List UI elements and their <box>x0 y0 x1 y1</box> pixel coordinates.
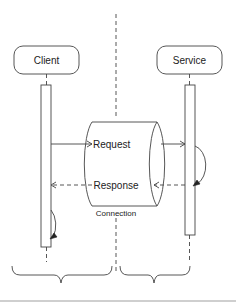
service-self-call-arc <box>195 146 206 184</box>
client-self-call-arc <box>51 210 56 237</box>
participant-service[interactable]: Service <box>157 46 222 74</box>
client-activation <box>41 85 51 247</box>
connection-cylinder <box>84 122 164 206</box>
bottom-divider <box>0 300 236 302</box>
request-label: Request <box>93 139 130 150</box>
right-brace <box>120 266 190 283</box>
client-label: Client <box>34 55 60 66</box>
participant-client[interactable]: Client <box>14 46 79 74</box>
service-activation <box>185 85 195 235</box>
response-label: Response <box>93 180 138 191</box>
service-label: Service <box>173 55 207 66</box>
left-brace <box>12 266 112 283</box>
sequence-diagram: Client Service Connection Request Respon… <box>0 0 236 303</box>
connection-label: Connection <box>96 209 136 218</box>
